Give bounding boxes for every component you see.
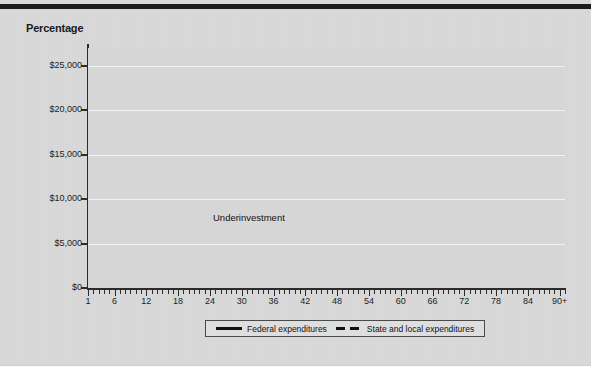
x-tick-mark xyxy=(332,290,333,294)
x-tick-mark xyxy=(475,290,476,294)
x-tick-mark xyxy=(480,290,481,294)
x-tick-mark xyxy=(501,290,502,294)
x-tick-mark xyxy=(252,290,253,294)
x-tick-mark xyxy=(427,290,428,294)
annotation-underinvestment: Underinvestment xyxy=(213,212,285,223)
y-tick-label: $25,000 xyxy=(49,60,82,70)
x-tick-mark xyxy=(443,290,444,294)
gridline xyxy=(88,155,565,156)
x-tick-mark xyxy=(448,290,449,294)
x-tick-label: 72 xyxy=(459,296,469,306)
x-tick-mark xyxy=(406,290,407,294)
x-tick-mark xyxy=(168,290,169,294)
x-tick-mark xyxy=(152,290,153,294)
legend-label-state-local: State and local expenditures xyxy=(367,324,474,334)
x-tick-mark xyxy=(236,290,237,294)
x-tick-mark xyxy=(268,290,269,294)
legend-item-state-local: State and local expenditures xyxy=(336,324,474,334)
x-tick-mark xyxy=(459,290,460,294)
x-tick-mark xyxy=(417,290,418,294)
x-tick-mark xyxy=(247,290,248,294)
y-tick-label: $5,000 xyxy=(54,238,82,248)
x-tick-label: 54 xyxy=(364,296,374,306)
x-tick-mark xyxy=(173,290,174,294)
x-tick-mark xyxy=(549,290,550,294)
x-tick-label: 36 xyxy=(268,296,278,306)
figure-page: Percentage $25,000$20,000$15,000$10,000$… xyxy=(0,0,591,366)
legend-label-federal: Federal expenditures xyxy=(247,324,327,334)
plot-background xyxy=(88,48,565,288)
x-tick-mark xyxy=(311,290,312,294)
x-tick-mark xyxy=(130,290,131,294)
gridline xyxy=(88,244,565,245)
x-tick-mark xyxy=(162,290,163,294)
x-tick-mark xyxy=(104,290,105,294)
x-tick-mark xyxy=(93,290,94,294)
x-tick-mark xyxy=(120,290,121,294)
x-tick-mark xyxy=(183,290,184,294)
gridline xyxy=(88,66,565,67)
x-tick-mark xyxy=(438,290,439,294)
x-tick-mark xyxy=(109,290,110,294)
chart-legend: Federal expenditures State and local exp… xyxy=(205,320,485,337)
x-tick-mark xyxy=(221,290,222,294)
x-tick-label: 18 xyxy=(173,296,183,306)
y-tick-label: $15,000 xyxy=(49,149,82,159)
legend-swatch-solid-icon xyxy=(216,327,242,330)
legend-item-federal: Federal expenditures xyxy=(216,324,327,334)
x-tick-label: 1 xyxy=(85,296,90,306)
x-tick-mark xyxy=(422,290,423,294)
x-tick-mark xyxy=(342,290,343,294)
x-tick-mark xyxy=(258,290,259,294)
x-tick-mark xyxy=(470,290,471,294)
x-tick-label: 6 xyxy=(112,296,117,306)
x-tick-mark xyxy=(385,290,386,294)
gridline xyxy=(88,199,565,200)
x-tick-label: 42 xyxy=(300,296,310,306)
x-tick-mark xyxy=(141,290,142,294)
x-tick-mark xyxy=(189,290,190,294)
x-tick-mark xyxy=(544,290,545,294)
x-tick-mark xyxy=(523,290,524,294)
x-tick-mark xyxy=(364,290,365,294)
x-tick-mark xyxy=(539,290,540,294)
x-tick-mark xyxy=(517,290,518,294)
x-tick-mark xyxy=(512,290,513,294)
x-tick-label: 66 xyxy=(427,296,437,306)
x-tick-label: 12 xyxy=(141,296,151,306)
y-tick-label: $10,000 xyxy=(49,193,82,203)
x-tick-mark xyxy=(565,290,566,294)
x-tick-mark xyxy=(374,290,375,294)
x-tick-mark xyxy=(380,290,381,294)
x-tick-label: 90+ xyxy=(552,296,567,306)
legend-swatch-dashed-icon xyxy=(336,327,362,330)
x-tick-mark xyxy=(321,290,322,294)
x-tick-mark xyxy=(533,290,534,294)
x-tick-mark xyxy=(300,290,301,294)
y-axis-labels: $25,000$20,000$15,000$10,000$5,000$0 xyxy=(0,0,82,366)
x-tick-mark xyxy=(205,290,206,294)
x-tick-mark xyxy=(491,290,492,294)
x-tick-mark xyxy=(289,290,290,294)
x-tick-mark xyxy=(125,290,126,294)
x-tick-mark xyxy=(316,290,317,294)
x-tick-mark xyxy=(295,290,296,294)
x-tick-mark xyxy=(358,290,359,294)
x-tick-mark xyxy=(411,290,412,294)
x-tick-mark xyxy=(279,290,280,294)
x-tick-mark xyxy=(554,290,555,294)
y-tick-label: $20,000 xyxy=(49,104,82,114)
x-tick-label: 48 xyxy=(332,296,342,306)
x-tick-mark xyxy=(348,290,349,294)
x-tick-label: 78 xyxy=(491,296,501,306)
x-tick-mark xyxy=(353,290,354,294)
x-tick-mark xyxy=(327,290,328,294)
x-tick-mark xyxy=(507,290,508,294)
x-tick-mark xyxy=(199,290,200,294)
x-tick-mark xyxy=(136,290,137,294)
x-tick-mark xyxy=(99,290,100,294)
x-tick-mark xyxy=(157,290,158,294)
x-tick-mark xyxy=(486,290,487,294)
x-tick-mark xyxy=(263,290,264,294)
x-tick-mark xyxy=(390,290,391,294)
